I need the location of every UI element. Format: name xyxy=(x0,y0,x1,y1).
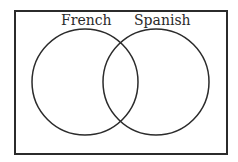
french-label: French xyxy=(61,12,112,28)
spanish-circle xyxy=(103,29,209,135)
spanish-label: Spanish xyxy=(134,12,191,28)
french-circle xyxy=(32,29,138,135)
venn-diagram: French Spanish xyxy=(0,0,238,162)
universe-rectangle xyxy=(15,11,227,154)
